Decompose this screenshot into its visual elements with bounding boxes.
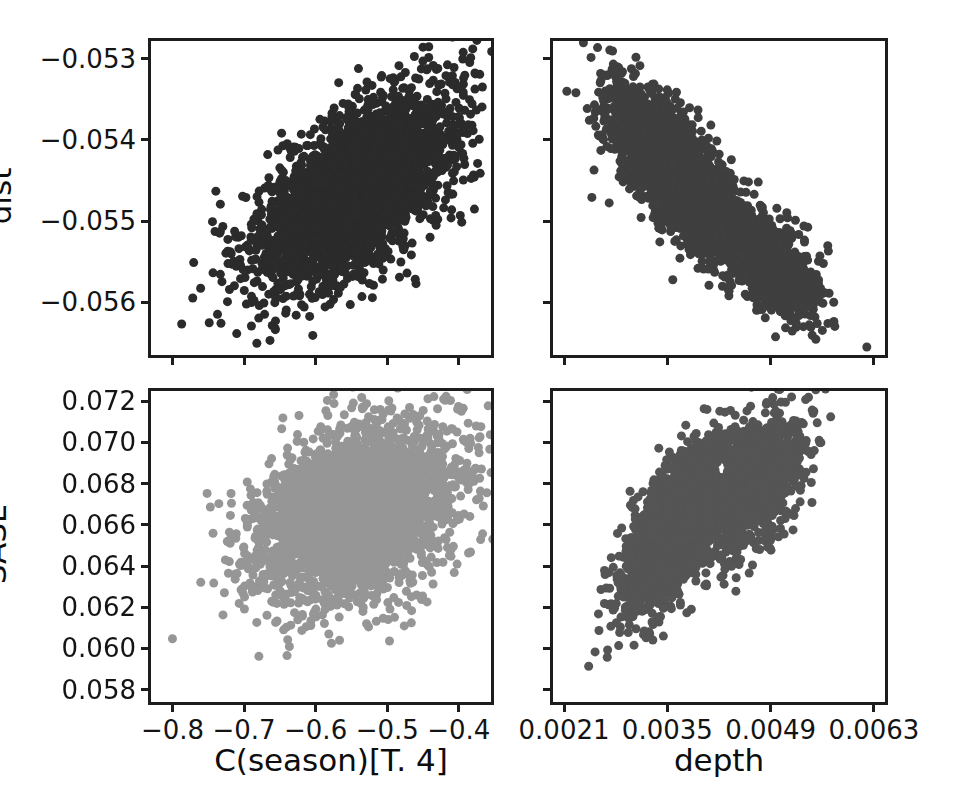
y-tick-mark <box>141 565 149 568</box>
x-tick-mark <box>457 357 460 365</box>
y-tick-label: 0.070 <box>62 429 136 455</box>
x-tick-mark <box>314 704 317 712</box>
scatter-points-bottom-left <box>151 391 491 702</box>
y-tick-label: 0.064 <box>62 553 136 579</box>
y-tick-label: −0.056 <box>40 289 136 315</box>
x-tick-mark <box>872 704 875 712</box>
y-tick-label: −0.054 <box>40 127 136 153</box>
y-tick-mark <box>543 138 551 141</box>
x-tick-mark <box>563 357 566 365</box>
y-tick-mark <box>543 523 551 526</box>
scatter-points-top-right <box>553 41 885 355</box>
x-axis-label-depth: depth <box>519 742 919 778</box>
y-tick-label: −0.053 <box>40 46 136 72</box>
x-tick-mark <box>563 704 566 712</box>
y-tick-mark <box>543 647 551 650</box>
y-tick-mark <box>141 400 149 403</box>
y-tick-mark <box>543 688 551 691</box>
y-tick-mark <box>543 400 551 403</box>
y-tick-mark <box>141 138 149 141</box>
x-tick-mark <box>872 357 875 365</box>
x-tick-mark <box>666 704 669 712</box>
y-tick-label: 0.066 <box>62 512 136 538</box>
scatter-points-bottom-right <box>553 391 885 702</box>
y-tick-mark <box>141 647 149 650</box>
y-axis-label-sasl: SASL <box>0 445 13 645</box>
y-tick-mark <box>141 441 149 444</box>
y-tick-label: 0.060 <box>62 635 136 661</box>
y-tick-label: 0.058 <box>62 677 136 703</box>
scatter-points-top-left <box>151 41 491 355</box>
x-tick-mark <box>243 704 246 712</box>
x-tick-mark <box>386 704 389 712</box>
y-tick-mark <box>141 220 149 223</box>
x-tick-mark <box>386 357 389 365</box>
y-tick-mark <box>543 301 551 304</box>
y-tick-mark <box>543 57 551 60</box>
y-tick-mark <box>141 301 149 304</box>
y-tick-label: 0.068 <box>62 471 136 497</box>
y-axis-label-dist: dist <box>0 96 18 296</box>
scatter-panel-top-left <box>148 38 494 358</box>
y-tick-mark <box>543 220 551 223</box>
y-tick-mark <box>141 688 149 691</box>
x-tick-mark <box>769 357 772 365</box>
y-tick-label: 0.072 <box>62 388 136 414</box>
x-tick-mark <box>457 704 460 712</box>
y-tick-mark <box>543 565 551 568</box>
scatter-plot-matrix: −0.053−0.054−0.055−0.0560.0720.0700.0680… <box>0 0 954 794</box>
y-tick-label: −0.055 <box>40 208 136 234</box>
x-tick-mark <box>769 704 772 712</box>
x-axis-label-season: C(season)[T. 4] <box>131 742 531 778</box>
y-tick-label: 0.062 <box>62 594 136 620</box>
y-tick-mark <box>141 523 149 526</box>
x-tick-mark <box>171 704 174 712</box>
y-tick-mark <box>141 606 149 609</box>
y-tick-mark <box>141 57 149 60</box>
y-tick-mark <box>543 441 551 444</box>
y-tick-mark <box>141 482 149 485</box>
x-tick-mark <box>666 357 669 365</box>
y-tick-mark <box>543 482 551 485</box>
x-tick-mark <box>243 357 246 365</box>
x-tick-mark <box>171 357 174 365</box>
scatter-panel-bottom-left <box>148 388 494 705</box>
x-tick-mark <box>314 357 317 365</box>
scatter-panel-top-right <box>550 38 888 358</box>
x-tick-label: 0.0063 <box>804 717 944 743</box>
scatter-panel-bottom-right <box>550 388 888 705</box>
y-tick-mark <box>543 606 551 609</box>
